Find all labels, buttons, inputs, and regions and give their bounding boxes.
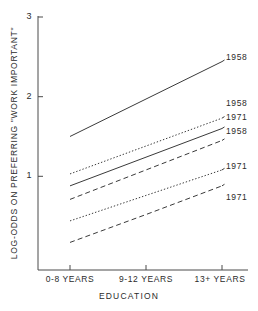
- y-tick-label-3: 3: [18, 11, 32, 21]
- series-leader-1971-dotted: [222, 168, 225, 170]
- x-tick-label-13-plus-years: 13+ YEARS: [182, 274, 258, 284]
- series-line-1958-solid: [70, 62, 222, 137]
- series-label-1971-dotted: 1971: [226, 161, 247, 171]
- series-line-1958-dashed: [70, 140, 222, 199]
- series-label-1958-solid: 1958: [226, 52, 247, 62]
- series-leader-1958-dashed: [222, 139, 225, 141]
- y-tick-label-1: 1: [18, 170, 32, 180]
- x-tick-label-0-8-years: 0-8 YEARS: [30, 274, 110, 284]
- x-tick-label-9-12-years: 9-12 YEARS: [104, 274, 188, 284]
- chart-figure: 3 2 1 0-8 YEARS 9-12 YEARS 13+ YEARS EDU…: [0, 0, 258, 311]
- series-label-1958-dashed: 1958: [226, 126, 247, 136]
- series-label-1958-dotted: 1958: [226, 98, 247, 108]
- series-label-1971-solid: 1971: [226, 112, 247, 122]
- series-label-1971-dashed: 1971: [226, 192, 247, 202]
- series-leader-1958-dotted: [222, 117, 225, 119]
- series-leader-1958-solid: [222, 60, 225, 62]
- series-line-1971-dashed: [70, 186, 222, 243]
- x-axis-title: EDUCATION: [0, 291, 258, 301]
- chart-plot-area: [0, 0, 258, 311]
- series-leader-1971-solid: [222, 127, 225, 129]
- y-tick-label-2: 2: [18, 91, 32, 101]
- chart-series-lines: [70, 60, 225, 242]
- y-axis-title: LOG-ODDS ON PREFERRING "WORK IMPORTANT": [9, 23, 19, 263]
- series-line-1958-dotted: [70, 118, 222, 174]
- series-leader-1971-dashed: [222, 184, 225, 186]
